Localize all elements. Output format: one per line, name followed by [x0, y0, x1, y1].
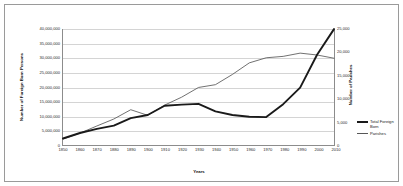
series-lines	[63, 29, 334, 145]
x-axis-tick-label: 1920	[178, 148, 187, 152]
y-axis-right-title: Number of Parishes	[348, 65, 353, 106]
y-axis-left-tick-label: 35,000,000	[40, 42, 61, 46]
x-axis-tick-label: 1980	[280, 148, 289, 152]
y-axis-right-tick-label: 5,000	[337, 121, 347, 125]
legend-entry[interactable]: Total Foreign Born	[357, 119, 403, 130]
x-axis-title: Years	[193, 169, 204, 174]
legend-line-icon	[357, 121, 368, 123]
x-axis-tick-label: 1900	[144, 148, 153, 152]
y-axis-right-tick-label: 20,000	[337, 50, 350, 54]
x-axis-tick-label: 1930	[195, 148, 204, 152]
x-axis-tick-label: 1940	[212, 148, 221, 152]
y-axis-left-tick-label: 5,000,000	[42, 129, 60, 133]
y-axis-left-title: Number of Foreign Born Persons	[19, 53, 24, 121]
x-axis-tick-label: 1950	[229, 148, 238, 152]
x-axis-tick-label: 1960	[246, 148, 255, 152]
y-axis-left-tick-label: 20,000,000	[40, 85, 61, 89]
x-axis-tick-label: 1910	[161, 148, 170, 152]
y-axis-left-tick-label: 40,000,000	[40, 27, 61, 31]
y-axis-left-tick-label: 30,000,000	[40, 56, 61, 60]
x-axis-tick-label: 1860	[76, 148, 85, 152]
x-axis-tick-label: 1880	[110, 148, 119, 152]
y-axis-left-tick-label: 10,000,000	[40, 115, 61, 119]
chart-frame: 05,000,00010,000,00015,000,00020,000,000…	[4, 4, 399, 182]
y-axis-right-tick-label: 25,000	[337, 27, 350, 31]
y-axis-left-tick-label: 15,000,000	[40, 100, 61, 104]
x-axis-tick-label: 2010	[331, 148, 340, 152]
series-line-total-foreign-born	[63, 29, 334, 138]
legend-line-icon	[357, 133, 368, 134]
x-axis-tick-label: 1890	[127, 148, 136, 152]
chart-legend: Total Foreign BornParishes	[357, 119, 403, 137]
x-axis-tick-label: 2000	[314, 148, 323, 152]
legend-entry[interactable]: Parishes	[357, 131, 403, 136]
x-axis-tick-label: 1850	[58, 148, 67, 152]
x-axis-tick-label: 1870	[93, 148, 102, 152]
plot-area: 05,000,00010,000,00015,000,00020,000,000…	[62, 29, 335, 146]
y-axis-left-tick-label: 25,000,000	[40, 71, 61, 75]
x-axis-tick-label: 1990	[297, 148, 306, 152]
series-line-parishes	[63, 53, 334, 139]
x-axis-tick-label: 1970	[263, 148, 272, 152]
